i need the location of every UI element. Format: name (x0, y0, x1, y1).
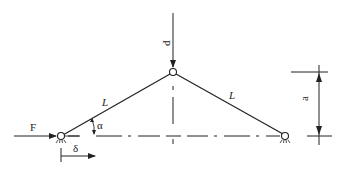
left-bar (63, 74, 170, 135)
left-support-pin (58, 133, 65, 140)
height-a-label: a (298, 96, 310, 101)
truss-diagram: P F δ α L L a (0, 0, 342, 174)
right-support-icon (280, 140, 290, 143)
left-support-icon (56, 140, 66, 143)
right-support-pin (282, 133, 289, 140)
top-hinge (170, 69, 177, 76)
left-bar-length-label: L (101, 96, 108, 108)
load-P-label: P (161, 40, 173, 46)
force-F-label: F (30, 121, 36, 133)
height-dimension (291, 65, 332, 145)
right-bar-length-label: L (228, 89, 235, 101)
right-bar (176, 74, 283, 134)
delta-label: δ (73, 142, 78, 154)
angle-alpha-label: α (97, 119, 103, 131)
